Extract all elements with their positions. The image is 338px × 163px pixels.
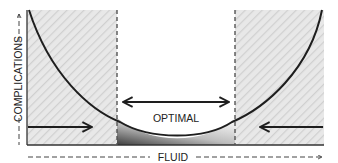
- y-axis-label: COMPLICATIONS: [12, 36, 24, 122]
- optimal-label: OPTIMAL: [153, 112, 199, 124]
- x-axis-label: FLUID: [158, 151, 189, 163]
- right-hatched-zone: [235, 10, 324, 145]
- fluid-complications-diagram: OPTIMAL FLUID COMPLICATIONS: [0, 0, 338, 163]
- left-hatched-zone: [27, 10, 117, 145]
